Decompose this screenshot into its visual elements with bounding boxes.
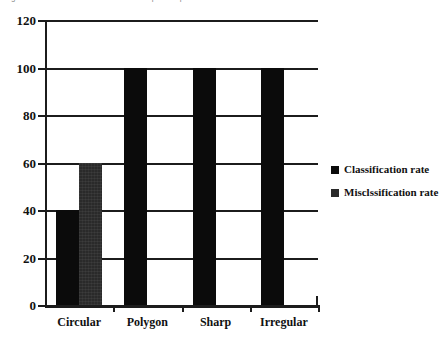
y-axis-tick-label: 120 (2, 14, 36, 27)
y-axis-tick-label: 100 (2, 62, 36, 75)
legend-label: Classification rate (344, 164, 429, 175)
x-axis-right-cap (316, 296, 318, 305)
bar[interactable] (124, 68, 147, 306)
x-axis-tick (250, 305, 252, 312)
legend-swatch-icon (331, 189, 339, 197)
x-axis-category-label: Irregular (250, 316, 318, 328)
y-axis-tick (38, 210, 45, 212)
chart-legend: Classification rate Misclssification rat… (331, 158, 443, 204)
y-axis-tick-labels: 020406080100120 (0, 0, 36, 347)
y-axis-tick (38, 68, 45, 70)
y-axis-tick (38, 258, 45, 260)
x-axis-tick (318, 305, 320, 312)
y-axis-tick-label: 80 (2, 109, 36, 122)
bar-chart-figure: 020406080100120 Classification rate Misc… (0, 0, 443, 347)
x-axis-category-label: Polygon (113, 316, 181, 328)
bar[interactable] (79, 163, 102, 306)
y-axis-tick-label: 0 (2, 299, 36, 312)
plot-area (45, 20, 318, 305)
y-axis-tick (38, 305, 45, 307)
gridline (45, 20, 318, 22)
legend-label: Misclssification rate (344, 187, 438, 198)
x-axis-tick (182, 305, 184, 312)
bar[interactable] (56, 210, 79, 305)
y-axis-tick (38, 20, 45, 22)
y-axis-tick-label: 20 (2, 252, 36, 265)
x-axis-tick (113, 305, 115, 312)
y-axis-tick (38, 163, 45, 165)
y-axis-tick-label: 60 (2, 157, 36, 170)
legend-item-classification-rate[interactable]: Classification rate (331, 158, 443, 181)
legend-item-misclassification-rate[interactable]: Misclssification rate (331, 181, 443, 204)
y-axis-tick-label: 40 (2, 204, 36, 217)
bar[interactable] (193, 68, 216, 306)
x-axis-category-label: Sharp (182, 316, 250, 328)
y-axis-tick (38, 115, 45, 117)
bar[interactable] (261, 68, 284, 306)
x-axis-category-label: Circular (45, 316, 113, 328)
legend-swatch-icon (331, 166, 339, 174)
